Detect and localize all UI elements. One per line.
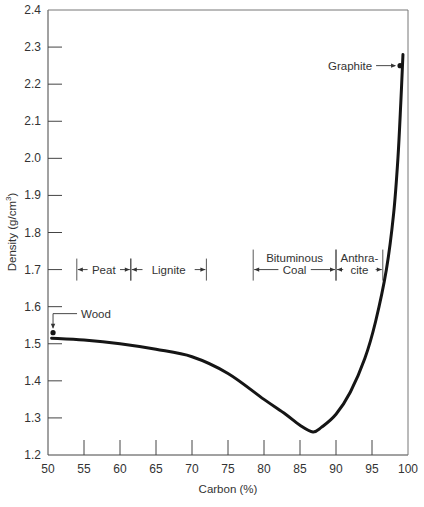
x-axis-title: Carbon (%) xyxy=(199,483,258,495)
region-label-line1: Anthra- xyxy=(341,252,379,264)
y-tick-label: 1.4 xyxy=(24,374,41,388)
x-tick-label: 70 xyxy=(185,462,199,476)
y-tick-label: 1.9 xyxy=(24,188,41,202)
y-axis-ticks: 1.21.31.41.51.61.71.81.92.02.12.22.32.4 xyxy=(24,3,62,462)
y-tick-label: 1.2 xyxy=(24,448,41,462)
region-anthra: Anthra-cite xyxy=(336,250,383,281)
y-tick-label: 1.7 xyxy=(24,263,41,277)
region-label: Lignite xyxy=(152,264,186,276)
arrowhead-icon xyxy=(51,324,55,329)
x-tick-label: 75 xyxy=(221,462,235,476)
arrowhead-icon xyxy=(377,267,382,271)
x-tick-label: 65 xyxy=(149,462,163,476)
arrowhead-icon xyxy=(330,267,335,271)
arrowhead-icon xyxy=(125,267,130,271)
region-label-line1: Bituminous xyxy=(266,252,323,264)
arrowhead-icon xyxy=(254,267,259,271)
x-tick-label: 90 xyxy=(329,462,343,476)
region-label: Peat xyxy=(92,264,116,276)
y-tick-label: 1.8 xyxy=(24,226,41,240)
data-point-dot xyxy=(397,63,402,68)
point-graphite: Graphite xyxy=(328,60,403,72)
arrowhead-icon xyxy=(391,63,396,67)
annotated-points: WoodGraphite xyxy=(50,60,402,336)
region-peat: Peat xyxy=(77,259,131,281)
y-tick-label: 2.2 xyxy=(24,77,41,91)
y-axis-title-tail: ) xyxy=(6,193,18,197)
y-tick-label: 1.6 xyxy=(24,300,41,314)
point-label: Wood xyxy=(81,308,111,320)
y-tick-label: 2.3 xyxy=(24,40,41,54)
y-tick-label: 2.4 xyxy=(24,3,41,17)
x-tick-label: 100 xyxy=(398,462,418,476)
region-lignite: Lignite xyxy=(131,259,207,281)
y-tick-label: 2.0 xyxy=(24,151,41,165)
y-tick-label: 1.3 xyxy=(24,411,41,425)
density-curve xyxy=(52,55,403,433)
arrowhead-icon xyxy=(78,267,83,271)
arrowhead-icon xyxy=(200,267,205,271)
x-tick-label: 95 xyxy=(365,462,379,476)
x-tick-label: 60 xyxy=(113,462,127,476)
arrowhead-icon xyxy=(132,267,137,271)
coal-rank-regions: PeatLigniteBituminousCoalAnthra-cite xyxy=(77,250,383,281)
point-wood: Wood xyxy=(50,308,110,336)
x-tick-label: 50 xyxy=(41,462,55,476)
x-axis-ticks: 50556065707580859095100 xyxy=(41,440,418,476)
plot-frame xyxy=(48,10,408,455)
region-label-line2: cite xyxy=(350,264,368,276)
region-bituminous: BituminousCoal xyxy=(253,250,336,281)
y-tick-label: 1.5 xyxy=(24,337,41,351)
x-tick-label: 80 xyxy=(257,462,271,476)
x-tick-label: 85 xyxy=(293,462,307,476)
y-tick-label: 2.1 xyxy=(24,114,41,128)
arrowhead-icon xyxy=(337,267,342,271)
y-axis-title: Density (g/cm3) xyxy=(4,193,18,272)
region-label-line2: Coal xyxy=(283,264,307,276)
y-axis-title-base: Density (g/cm xyxy=(6,201,18,271)
density-carbon-chart: 1.21.31.41.51.61.71.81.92.02.12.22.32.4 … xyxy=(0,0,424,507)
data-point-dot xyxy=(50,330,55,335)
point-label: Graphite xyxy=(328,60,372,72)
x-tick-label: 55 xyxy=(77,462,91,476)
